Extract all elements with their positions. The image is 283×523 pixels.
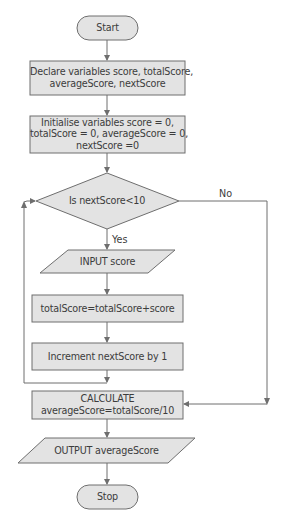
no-branch-line [179,201,267,403]
calculate-label: CALCULATE averageScore=totalScore/10 [32,393,183,416]
initialise-text-line2: totalScore = 0, averageScore = 0, [30,128,185,139]
output-text: OUTPUT averageScore [54,445,159,456]
start-text: Start [96,22,118,33]
loop-back-arrowhead-up [21,201,27,208]
no-edge-label: No [219,188,232,199]
calculate-text-line1: CALCULATE [32,393,183,405]
yes-text: Yes [112,234,128,245]
declare-text-line1: Declare variables score, totalScore, [30,66,185,78]
declare-text-line2: averageScore, nextScore [30,78,185,90]
stop-label: Stop [77,491,138,503]
increment-text: Increment nextScore by 1 [48,351,167,362]
initialise-text-line1: Initialise variables score = 0, [30,117,185,128]
decision-label: Is nextScore<10 [57,195,157,207]
stop-text: Stop [97,491,118,502]
calculate-text-line2: averageScore=totalScore/10 [32,405,183,417]
start-label: Start [77,22,138,34]
initialise-label: Initialise variables score = 0, totalSco… [30,117,185,151]
input-text: INPUT score [80,256,135,267]
decision-text: Is nextScore<10 [69,195,145,206]
output-label: OUTPUT averageScore [18,445,195,457]
no-text: No [219,188,232,199]
loop-back-to-decision [24,201,35,202]
yes-edge-label: Yes [112,234,128,245]
input-label: INPUT score [40,256,175,268]
total-text: totalScore=totalScore+score [40,303,174,314]
increment-label: Increment nextScore by 1 [32,351,183,363]
total-label: totalScore=totalScore+score [32,303,183,315]
declare-label: Declare variables score, totalScore, ave… [30,66,185,89]
initialise-text-line3: nextScore =0 [30,140,185,151]
